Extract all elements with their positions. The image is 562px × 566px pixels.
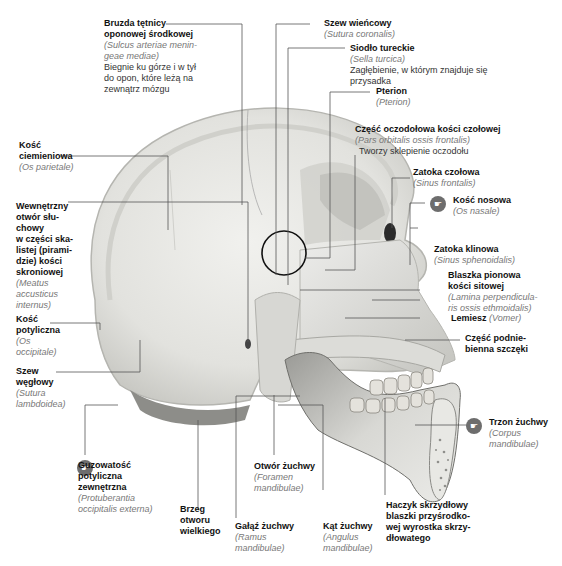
label-protuberantia-occipitalis: Guzowatość potyliczna zewnętrzna (Protub… bbox=[78, 460, 178, 515]
label-sella-turcica: Siodło tureckie (Sella turcica) Zagłębie… bbox=[350, 43, 550, 87]
label-description: Tworzy sklepienie oczodołu bbox=[355, 146, 560, 157]
label-latin: (Angulus mandibulae) bbox=[323, 532, 373, 554]
label-description: Zagłębienie, w którym znajduje się przys… bbox=[350, 65, 550, 87]
label-latin: (Meatus accusticus internus) bbox=[16, 278, 96, 311]
label-processus-palatinus: Część podnie- bienna szczęki bbox=[465, 333, 528, 355]
label-title: Pterion bbox=[376, 86, 411, 97]
label-title: Zatoka klinowa bbox=[434, 244, 515, 255]
pointing-hand-icon: ☛ bbox=[466, 418, 482, 434]
label-title: Guzowatość potyliczna zewnętrzna bbox=[78, 460, 178, 493]
label-title: Kość nosowa bbox=[453, 195, 511, 206]
label-lamina-perpendicularis: Blaszka pionowa kości sitowej (Lamina pe… bbox=[448, 270, 538, 314]
label-latin: (Sinus frontalis) bbox=[413, 178, 480, 189]
label-latin: (Pterion) bbox=[376, 97, 411, 108]
label-title: Gałąź żuchwy bbox=[235, 521, 294, 532]
label-latin: (Sella turcica) bbox=[350, 54, 550, 65]
label-sulcus-arteriae-meningeae: Bruzda tętnicy oponowej środkowej (Sulcu… bbox=[104, 18, 229, 95]
label-os-nasale: Kość nosowa (Os nasale) bbox=[453, 195, 511, 217]
label-title: Trzon żuchwy bbox=[489, 417, 548, 428]
label-title: Kąt żuchwy bbox=[323, 521, 373, 532]
label-latin: (Corpus mandibulae) bbox=[489, 428, 548, 450]
label-latin: (Lamina perpendicula- ris ossis ethmoida… bbox=[448, 292, 538, 314]
label-pars-orbitalis: Część oczodołowa kości czołowej (Pars or… bbox=[355, 124, 560, 157]
label-corpus-mandibulae: Trzon żuchwy (Corpus mandibulae) bbox=[489, 417, 548, 450]
label-title: Blaszka pionowa kości sitowej bbox=[448, 270, 538, 292]
label-sutura-lambdoidea: Szew węgłowy (Sutura lambdoidea) bbox=[16, 366, 66, 410]
label-title: Bruzda tętnicy oponowej środkowej bbox=[104, 18, 229, 40]
label-latin: (Sutura coronalis) bbox=[324, 29, 395, 40]
label-latin: (Sutura lambdoidea) bbox=[16, 388, 66, 410]
label-foramen-mandibulae: Otwór żuchwy (Foramen mandibulae) bbox=[254, 461, 315, 494]
label-foramen-magnum-margin: Brzeg otworu wielkiego bbox=[180, 504, 221, 537]
label-title: Szew wieńcowy bbox=[324, 18, 395, 29]
label-sutura-coronalis: Szew wieńcowy (Sutura coronalis) bbox=[324, 18, 395, 40]
label-angulus-mandibulae: Kąt żuchwy (Angulus mandibulae) bbox=[323, 521, 373, 554]
label-latin: (Protuberantia occipitalis externa) bbox=[78, 493, 178, 515]
label-latin: (Foramen mandibulae) bbox=[254, 472, 315, 494]
label-os-occipitale: Kość potyliczna (Os occipitale) bbox=[16, 314, 60, 358]
label-title: Kość ciemieniowa bbox=[19, 140, 74, 162]
label-hamulus-pterygoideus: Haczyk skrzydłowy blaszki przyśrodko- we… bbox=[386, 500, 516, 544]
label-latin: (Os parietale) bbox=[19, 162, 74, 173]
label-latin: (Pars orbitalis ossis frontalis) bbox=[355, 135, 560, 146]
label-sinus-frontalis: Zatoka czołowa (Sinus frontalis) bbox=[413, 167, 480, 189]
label-latin: (Sulcus arteriae menin- geae mediae) bbox=[104, 40, 229, 62]
label-os-parietale: Kość ciemieniowa (Os parietale) bbox=[19, 140, 74, 173]
label-title: Lemiesz bbox=[451, 313, 487, 323]
label-ramus-mandibulae: Gałąź żuchwy (Ramus mandibulae) bbox=[235, 521, 294, 554]
label-vomer: Lemiesz (Vomer) bbox=[451, 313, 521, 324]
label-title: Otwór żuchwy bbox=[254, 461, 315, 472]
label-title: Haczyk skrzydłowy blaszki przyśrodko- we… bbox=[386, 500, 516, 544]
label-latin: (Os nasale) bbox=[453, 206, 511, 217]
label-latin: (Os occipitale) bbox=[16, 336, 60, 358]
label-title: Szew węgłowy bbox=[16, 366, 66, 388]
label-title: Brzeg otworu wielkiego bbox=[180, 504, 221, 537]
label-sinus-sphenoidalis: Zatoka klinowa (Sinus sphenoidalis) bbox=[434, 244, 515, 266]
label-title: Część podnie- bienna szczęki bbox=[465, 333, 528, 355]
label-latin: (Ramus mandibulae) bbox=[235, 532, 294, 554]
label-title: Część oczodołowa kości czołowej bbox=[355, 124, 560, 135]
label-description: Biegnie ku górze i w tył do opon, które … bbox=[104, 62, 229, 95]
skull-diagram: Bruzda tętnicy oponowej środkowej (Sulcu… bbox=[0, 0, 562, 566]
label-pterion: Pterion (Pterion) bbox=[376, 86, 411, 108]
label-title: Kość potyliczna bbox=[16, 314, 60, 336]
label-title: Siodło tureckie bbox=[350, 43, 550, 54]
label-latin: (Vomer) bbox=[489, 313, 521, 323]
label-title: Wewnętrzny otwór słu- chowy w części ska… bbox=[16, 201, 96, 278]
pointing-hand-icon: ☛ bbox=[430, 196, 446, 212]
label-title: Zatoka czołowa bbox=[413, 167, 480, 178]
label-latin: (Sinus sphenoidalis) bbox=[434, 255, 515, 266]
label-meatus-acusticus-internus: Wewnętrzny otwór słu- chowy w części ska… bbox=[16, 201, 96, 311]
